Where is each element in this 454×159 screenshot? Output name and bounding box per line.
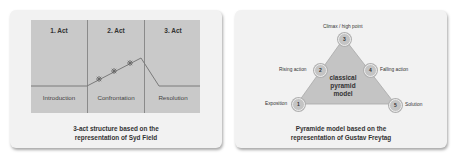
center-text: model [315, 90, 371, 98]
node-label-falling-action: Falling action [380, 67, 408, 72]
caption-line: 3-act structure based on the [10, 124, 222, 133]
center-text: pyramid [315, 82, 371, 90]
three-act-diagram: 1. Act Introduction 2. Act Confrontation… [31, 20, 200, 113]
caption-line: representation of Gustav Freytag [235, 133, 447, 142]
node-5: 5 [389, 99, 402, 112]
node-1: 1 [292, 98, 305, 111]
tension-curve [31, 20, 200, 113]
caption-line: representation of Syd Field [10, 133, 222, 142]
pyramid-caption: Pyramide model based on the representati… [235, 124, 447, 142]
node-label-climax: Climax / high point [323, 24, 362, 29]
node-3: 3 [338, 33, 351, 46]
pyramid-center-label: classical pyramid model [315, 74, 371, 98]
node-label-exposition: Exposition [265, 101, 287, 106]
pyramid-card: classical pyramid model Climax / high po… [235, 10, 447, 148]
three-act-card: 1. Act Introduction 2. Act Confrontation… [10, 10, 222, 148]
node-2: 2 [314, 64, 327, 77]
caption-line: Pyramide model based on the [235, 124, 447, 133]
three-act-caption: 3-act structure based on the representat… [10, 124, 222, 142]
asterisk-icon [96, 60, 133, 82]
node-label-rising-action: Rising action [279, 67, 306, 72]
node-label-solution: Solution [405, 102, 422, 107]
node-4: 4 [364, 64, 377, 77]
